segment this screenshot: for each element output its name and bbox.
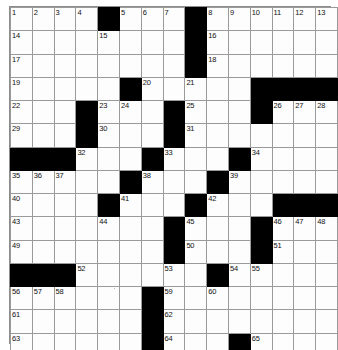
crossword-cell[interactable]: [207, 147, 229, 170]
crossword-cell[interactable]: [294, 333, 316, 350]
crossword-cell[interactable]: [207, 101, 229, 124]
crossword-cell[interactable]: [32, 194, 54, 217]
crossword-cell[interactable]: [207, 310, 229, 333]
crossword-cell[interactable]: [54, 77, 76, 100]
crossword-cell[interactable]: [76, 240, 98, 263]
crossword-cell[interactable]: [98, 310, 120, 333]
crossword-cell[interactable]: 32: [76, 147, 98, 170]
crossword-cell[interactable]: [250, 194, 272, 217]
crossword-cell[interactable]: [98, 147, 120, 170]
crossword-cell[interactable]: [316, 54, 338, 77]
crossword-cell[interactable]: [294, 147, 316, 170]
crossword-cell[interactable]: 64: [163, 333, 185, 350]
crossword-cell[interactable]: [54, 310, 76, 333]
crossword-cell[interactable]: [272, 147, 294, 170]
crossword-cell[interactable]: [185, 310, 207, 333]
crossword-cell[interactable]: 18: [207, 54, 229, 77]
crossword-cell[interactable]: 40: [11, 194, 33, 217]
crossword-cell[interactable]: [294, 310, 316, 333]
crossword-cell[interactable]: 20: [141, 77, 163, 100]
crossword-cell[interactable]: [54, 31, 76, 54]
crossword-cell[interactable]: [207, 217, 229, 240]
crossword-cell[interactable]: [76, 54, 98, 77]
crossword-cell[interactable]: [141, 263, 163, 286]
crossword-cell[interactable]: 7: [163, 8, 185, 31]
crossword-cell[interactable]: 27: [294, 101, 316, 124]
crossword-cell[interactable]: [294, 263, 316, 286]
crossword-cell[interactable]: 10: [250, 8, 272, 31]
crossword-cell[interactable]: [76, 77, 98, 100]
crossword-cell[interactable]: 50: [185, 240, 207, 263]
crossword-cell[interactable]: [163, 170, 185, 193]
crossword-cell[interactable]: [207, 240, 229, 263]
crossword-cell[interactable]: [185, 170, 207, 193]
crossword-cell[interactable]: [32, 124, 54, 147]
crossword-cell[interactable]: [250, 124, 272, 147]
crossword-cell[interactable]: 46: [272, 217, 294, 240]
crossword-cell[interactable]: 36: [32, 170, 54, 193]
crossword-cell[interactable]: 37: [54, 170, 76, 193]
crossword-cell[interactable]: 43: [11, 217, 33, 240]
crossword-cell[interactable]: [228, 54, 250, 77]
crossword-cell[interactable]: [294, 170, 316, 193]
crossword-cell[interactable]: [141, 101, 163, 124]
crossword-cell[interactable]: [98, 54, 120, 77]
crossword-cell[interactable]: [185, 147, 207, 170]
crossword-cell[interactable]: [250, 54, 272, 77]
crossword-cell[interactable]: [32, 310, 54, 333]
crossword-cell[interactable]: 26: [272, 101, 294, 124]
crossword-cell[interactable]: [98, 240, 120, 263]
crossword-cell[interactable]: 28: [316, 101, 338, 124]
crossword-cell[interactable]: 62: [163, 310, 185, 333]
crossword-cell[interactable]: [250, 310, 272, 333]
crossword-cell[interactable]: 24: [119, 101, 141, 124]
crossword-cell[interactable]: [294, 240, 316, 263]
crossword-cell[interactable]: [316, 124, 338, 147]
crossword-cell[interactable]: [54, 333, 76, 350]
crossword-cell[interactable]: 16: [207, 31, 229, 54]
crossword-cell[interactable]: 25: [185, 101, 207, 124]
crossword-cell[interactable]: 55: [250, 263, 272, 286]
crossword-cell[interactable]: 45: [185, 217, 207, 240]
crossword-cell[interactable]: [76, 31, 98, 54]
crossword-cell[interactable]: [119, 240, 141, 263]
crossword-cell[interactable]: [228, 77, 250, 100]
crossword-cell[interactable]: 33: [163, 147, 185, 170]
crossword-cell[interactable]: [272, 333, 294, 350]
crossword-cell[interactable]: [32, 101, 54, 124]
crossword-cell[interactable]: [32, 333, 54, 350]
crossword-cell[interactable]: [32, 240, 54, 263]
crossword-cell[interactable]: [119, 54, 141, 77]
crossword-cell[interactable]: [228, 240, 250, 263]
crossword-cell[interactable]: [228, 194, 250, 217]
crossword-cell[interactable]: 13: [316, 8, 338, 31]
crossword-cell[interactable]: [141, 54, 163, 77]
crossword-cell[interactable]: [250, 287, 272, 310]
crossword-cell[interactable]: [250, 31, 272, 54]
crossword-cell[interactable]: [294, 31, 316, 54]
crossword-cell[interactable]: [272, 170, 294, 193]
crossword-cell[interactable]: 31: [185, 124, 207, 147]
crossword-cell[interactable]: 54: [228, 263, 250, 286]
crossword-cell[interactable]: 63: [11, 333, 33, 350]
crossword-cell[interactable]: [228, 287, 250, 310]
crossword-cell[interactable]: [316, 147, 338, 170]
crossword-cell[interactable]: [54, 240, 76, 263]
crossword-cell[interactable]: 47: [294, 217, 316, 240]
crossword-cell[interactable]: 58: [54, 287, 76, 310]
crossword-cell[interactable]: [54, 124, 76, 147]
crossword-cell[interactable]: [98, 77, 120, 100]
crossword-cell[interactable]: [185, 263, 207, 286]
crossword-cell[interactable]: [272, 263, 294, 286]
crossword-cell[interactable]: [141, 217, 163, 240]
crossword-cell[interactable]: [163, 77, 185, 100]
crossword-cell[interactable]: 17: [11, 54, 33, 77]
crossword-cell[interactable]: [32, 77, 54, 100]
crossword-cell[interactable]: 12: [294, 8, 316, 31]
crossword-cell[interactable]: [316, 31, 338, 54]
crossword-cell[interactable]: 38: [141, 170, 163, 193]
crossword-cell[interactable]: [294, 54, 316, 77]
crossword-cell[interactable]: [76, 333, 98, 350]
crossword-cell[interactable]: 42: [207, 194, 229, 217]
crossword-cell[interactable]: 30: [98, 124, 120, 147]
